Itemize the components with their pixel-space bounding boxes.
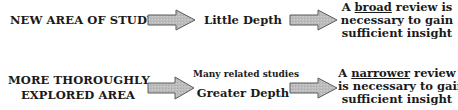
row1-topic-line1: NEW AREA OF STUDY <box>10 13 155 27</box>
arrow-right-icon <box>289 9 339 31</box>
row2-result-text: A narrower review is necessary to gain s… <box>338 67 456 107</box>
row1-result-text: A broad review is necessary to gain suff… <box>338 1 456 41</box>
row2-topic-label: MORE THOROUGHLY EXPLORED AREA <box>8 73 148 103</box>
row2-topic-line2: EXPLORED AREA <box>8 88 148 103</box>
row1-topic-label: NEW AREA OF STUDY <box>10 13 146 27</box>
arrow-right-icon <box>147 76 197 100</box>
row2-studies-note: Many related studies <box>193 69 293 79</box>
row1-depth-label: Little Depth <box>197 13 289 27</box>
row2-depth-label: Greater Depth <box>195 86 291 100</box>
arrow-right-icon <box>289 77 339 99</box>
emphasis-broad: broad <box>355 0 392 14</box>
arrow-right-icon <box>147 9 197 31</box>
emphasis-narrower: narrower <box>351 66 410 80</box>
row2-topic-line1: MORE THOROUGHLY <box>8 73 148 88</box>
row2-result-line3: sufficient insight <box>338 93 456 106</box>
row1-result-line3: sufficient insight <box>338 27 456 40</box>
